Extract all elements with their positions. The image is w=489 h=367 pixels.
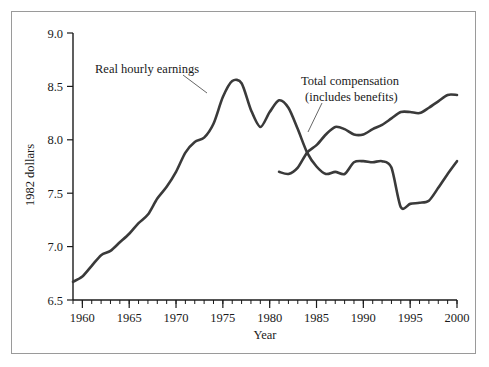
y-axis-tick-labels: 6.57.07.58.08.59.0 [47, 27, 63, 308]
x-tick-label: 1995 [398, 311, 423, 325]
leader-line-total-compensation [308, 103, 322, 132]
data-series-group [73, 80, 457, 282]
chart-canvas: 6.57.07.58.08.59.0 196019651970197519801… [0, 0, 489, 367]
leader-line-real-hourly-earnings [183, 75, 207, 93]
y-axis-ticks [67, 33, 73, 300]
x-tick-label: 1985 [304, 311, 329, 325]
line-real-hourly-earnings [73, 80, 457, 282]
y-tick-label: 6.5 [47, 294, 63, 308]
x-tick-label: 1960 [70, 311, 95, 325]
figure-container: 6.57.07.58.08.59.0 196019651970197519801… [0, 0, 489, 367]
x-tick-label: 2000 [445, 311, 470, 325]
x-tick-label: 1990 [351, 311, 376, 325]
annotation-real-hourly-earnings: Real hourly earnings [95, 62, 199, 76]
x-tick-label: 1970 [164, 311, 189, 325]
x-tick-label: 1980 [257, 311, 282, 325]
y-tick-label: 7.5 [47, 187, 63, 201]
x-axis-tick-labels: 196019651970197519801985199019952000 [70, 311, 470, 325]
annotation-total-compensation-line2: (includes benefits) [305, 90, 398, 104]
y-tick-label: 8.5 [47, 80, 63, 94]
x-tick-label: 1965 [117, 311, 142, 325]
y-tick-label: 9.0 [47, 27, 63, 41]
y-axis-title: 1982 dollars [23, 144, 37, 206]
x-axis-title: Year [253, 328, 277, 342]
y-tick-label: 7.0 [47, 240, 63, 254]
annotation-total-compensation-line1: Total compensation [301, 74, 400, 88]
x-tick-label: 1975 [210, 311, 235, 325]
y-tick-label: 8.0 [47, 133, 63, 147]
